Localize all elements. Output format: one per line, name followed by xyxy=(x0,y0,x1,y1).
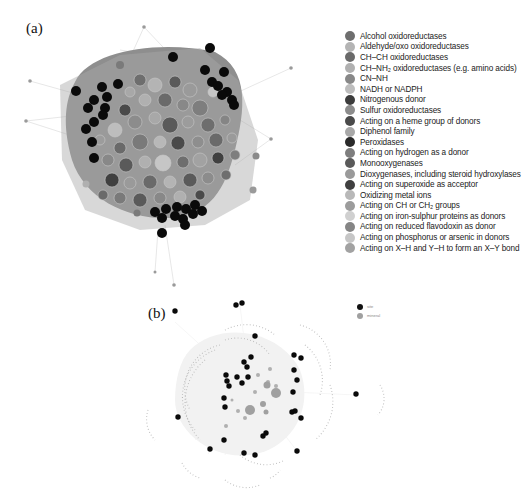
legend-item: Acting on iron-sulphur proteins as donor… xyxy=(345,211,524,222)
legend-item: CH–CH oxidoreductases xyxy=(345,52,524,63)
legend-item-site: site xyxy=(357,302,380,311)
legend-swatch-icon xyxy=(345,105,355,115)
legend-label: Diphenol family xyxy=(360,127,414,136)
legend-label: CN–NH xyxy=(360,74,388,83)
legend-swatch-icon xyxy=(345,233,355,243)
legend-label: Acting on reduced flavodoxin as donor xyxy=(360,222,496,231)
edge-haze-b xyxy=(175,333,304,456)
legend-item: CH–NH₂ oxidoreductases (e.g. amino acids… xyxy=(345,63,524,74)
legend-swatch-icon xyxy=(345,169,355,179)
legend-item: CN–NH xyxy=(345,73,524,84)
legend-swatch-icon xyxy=(345,158,355,168)
legend-label: Alcohol oxidoreductases xyxy=(360,32,446,41)
legend-label: Acting on iron-sulphur proteins as donor… xyxy=(360,212,505,221)
legend-item: Sulfur oxidoreductases xyxy=(345,105,524,116)
legend-item: Nitrogenous donor xyxy=(345,95,524,106)
legend-item: Acting on reduced flavodoxin as donor xyxy=(345,222,524,233)
legend-label: CH–NH₂ oxidoreductases (e.g. amino acids… xyxy=(360,64,517,73)
legend-label: Monooxygenases xyxy=(360,159,423,168)
legend-label: Acting on X–H and Y–H to form an X–Y bon… xyxy=(360,244,519,253)
legend-label: Acting on phosphorus or arsenic in donor… xyxy=(360,233,509,242)
legend-swatch-icon xyxy=(345,63,355,73)
legend-label: mineral xyxy=(367,313,380,318)
site-mineral-network-b xyxy=(147,300,384,487)
legend-swatch-icon xyxy=(345,211,355,221)
legend-item: Acting on hydrogen as a donor xyxy=(345,148,524,159)
legend-label: NADH or NADPH xyxy=(360,85,422,94)
legend-label: Acting on superoxide as acceptor xyxy=(360,180,478,189)
legend-item: Dioxygenases, including steroid hydroxyl… xyxy=(345,169,524,180)
site-swatch-icon xyxy=(357,304,363,310)
legend-item-mineral: mineral xyxy=(357,311,380,320)
legend-swatch-icon xyxy=(345,74,355,84)
legend-swatch-icon xyxy=(345,127,355,137)
legend-label: CH–CH oxidoreductases xyxy=(360,53,448,62)
legend-item: Diphenol family xyxy=(345,126,524,137)
legend-label: Acting on a heme group of donors xyxy=(360,117,480,126)
legend-swatch-icon xyxy=(345,148,355,158)
legend-label: Sulfur oxidoreductases xyxy=(360,106,441,115)
legend-swatch-icon xyxy=(345,137,355,147)
legend-label: Aldehyde/oxo oxidoreductases xyxy=(360,42,469,51)
mineral-swatch-icon xyxy=(357,313,363,319)
legend-swatch-icon xyxy=(345,84,355,94)
panel-b-label: (b) xyxy=(148,305,166,322)
legend-swatch-icon xyxy=(345,243,355,253)
legend-item: Peroxidases xyxy=(345,137,524,148)
legend-swatch-icon xyxy=(345,180,355,190)
legend-label: Nitrogenous donor xyxy=(360,95,426,104)
legend-label: Acting on CH or CH₂ groups xyxy=(360,201,460,210)
legend-swatch-icon xyxy=(345,201,355,211)
legend-swatch-icon xyxy=(345,31,355,41)
enzyme-network-a xyxy=(24,25,293,287)
legend-swatch-icon xyxy=(345,190,355,200)
legend-item: NADH or NADPH xyxy=(345,84,524,95)
legend-swatch-icon xyxy=(345,222,355,232)
legend-swatch-icon xyxy=(345,52,355,62)
legend-item: Alcohol oxidoreductases xyxy=(345,31,524,42)
legend-node-types: site mineral xyxy=(357,302,380,320)
legend-swatch-icon xyxy=(345,95,355,105)
legend-label: Acting on hydrogen as a donor xyxy=(360,148,469,157)
legend-enzyme-classes: Alcohol oxidoreductases Aldehyde/oxo oxi… xyxy=(345,31,524,253)
legend-label: Oxidizing metal ions xyxy=(360,191,431,200)
legend-item: Acting on phosphorus or arsenic in donor… xyxy=(345,232,524,243)
legend-item: Acting on superoxide as acceptor xyxy=(345,179,524,190)
legend-label: site xyxy=(367,304,373,309)
legend-item: Acting on CH or CH₂ groups xyxy=(345,201,524,212)
legend-item: Oxidizing metal ions xyxy=(345,190,524,201)
legend-label: Dioxygenases, including steroid hydroxyl… xyxy=(360,170,521,179)
legend-label: Peroxidases xyxy=(360,138,404,147)
legend-item: Aldehyde/oxo oxidoreductases xyxy=(345,42,524,53)
legend-swatch-icon xyxy=(345,116,355,126)
legend-swatch-icon xyxy=(345,42,355,52)
legend-item: Acting on X–H and Y–H to form an X–Y bon… xyxy=(345,243,524,254)
legend-item: Acting on a heme group of donors xyxy=(345,116,524,127)
legend-item: Monooxygenases xyxy=(345,158,524,169)
panel-a-label: (a) xyxy=(26,20,43,37)
